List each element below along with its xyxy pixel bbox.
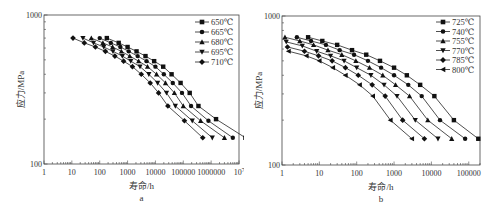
legend-label: 755℃ xyxy=(452,36,474,46)
triangle-down-marker-icon xyxy=(354,65,359,70)
circle-marker-icon xyxy=(162,72,166,76)
series-695℃ xyxy=(80,36,215,141)
square-marker-icon xyxy=(188,91,192,95)
circle-marker-icon xyxy=(366,59,370,63)
triangle-left-marker-icon xyxy=(388,118,393,123)
triangle-left-marker-icon xyxy=(286,49,291,54)
square-marker-icon xyxy=(418,83,422,87)
circle-marker-icon xyxy=(144,59,148,63)
triangle-up-marker-icon xyxy=(145,64,150,69)
triangle-up-marker-icon xyxy=(89,35,94,40)
square-marker-icon xyxy=(441,20,446,25)
circle-marker-icon xyxy=(337,48,341,52)
circle-marker-icon xyxy=(135,54,139,58)
circle-marker-icon xyxy=(295,35,299,39)
legend-label: 695℃ xyxy=(211,47,233,57)
triangle-up-marker-icon xyxy=(380,73,385,78)
triangle-down-marker-icon xyxy=(128,59,133,64)
square-marker-icon xyxy=(214,117,218,121)
triangle-left-marker-icon xyxy=(343,73,348,78)
series-800℃ xyxy=(286,49,414,142)
y-tick-label: 1000 xyxy=(264,12,280,21)
circle-marker-icon xyxy=(231,136,235,140)
diamond-marker-icon xyxy=(343,65,349,71)
square-marker-icon xyxy=(306,35,310,39)
square-marker-icon xyxy=(169,72,173,76)
legend-label: 800℃ xyxy=(452,65,474,75)
circle-marker-icon xyxy=(200,30,205,35)
triangle-down-marker-icon xyxy=(120,54,125,59)
legend-label: 740℃ xyxy=(452,27,474,37)
x-tick-label: 10 xyxy=(315,169,323,178)
square-marker-icon xyxy=(116,41,120,45)
diamond-marker-icon xyxy=(121,58,127,64)
triangle-up-marker-icon xyxy=(181,103,186,108)
circle-marker-icon xyxy=(98,36,102,40)
diamond-marker-icon xyxy=(285,44,291,50)
circle-marker-icon xyxy=(118,45,122,49)
y-tick-label: 1000 xyxy=(26,11,42,20)
square-marker-icon xyxy=(143,54,147,58)
triangle-left-marker-icon xyxy=(330,65,335,70)
legend-label: 680℃ xyxy=(211,37,233,47)
square-marker-icon xyxy=(476,137,480,141)
legend-label: 725℃ xyxy=(452,17,474,27)
x-tick-label: 100000 xyxy=(171,168,195,177)
legend: 725℃740℃755℃770℃785℃800℃ xyxy=(436,17,474,75)
y-axis-label: 应力/MPa xyxy=(253,72,264,110)
chart-panel-b: 1101001000100001000001001000寿命/hb应力/MPa7… xyxy=(244,0,488,210)
square-marker-icon xyxy=(378,59,382,63)
circle-marker-icon xyxy=(127,49,131,53)
x-tick-label: 100 xyxy=(94,168,106,177)
triangle-down-marker-icon xyxy=(435,137,440,142)
square-marker-icon xyxy=(178,81,182,85)
diamond-marker-icon xyxy=(302,48,308,54)
triangle-down-marker-icon xyxy=(210,136,215,141)
triangle-down-marker-icon xyxy=(342,59,347,64)
circle-marker-icon xyxy=(406,83,410,87)
series-740℃ xyxy=(295,35,468,141)
x-tick-label: 1000 xyxy=(120,168,136,177)
triangle-up-marker-icon xyxy=(136,58,141,63)
circle-marker-icon xyxy=(171,81,175,85)
chart-panel-a: 11010010001000010000010000001071001000寿命… xyxy=(0,0,244,210)
square-marker-icon xyxy=(125,45,129,49)
diamond-marker-icon xyxy=(70,35,76,41)
chart-b-svg: 1101001000100001000001001000寿命/hb应力/MPa7… xyxy=(244,0,488,210)
diamond-marker-icon xyxy=(316,53,322,59)
triangle-left-marker-icon xyxy=(304,53,309,58)
series-755℃ xyxy=(282,35,454,141)
x-tick-label: 1000 xyxy=(386,169,402,178)
panel-label: a xyxy=(140,193,144,203)
x-axis-label: 寿命/h xyxy=(129,180,155,191)
circle-marker-icon xyxy=(206,119,210,123)
x-tick-label: 10000 xyxy=(145,168,165,177)
legend-label: 710℃ xyxy=(211,57,233,67)
circle-marker-icon xyxy=(463,137,467,141)
x-tick-label: 1 xyxy=(280,169,284,178)
square-marker-icon xyxy=(364,52,368,56)
x-tick-label: 100000 xyxy=(457,169,481,178)
square-marker-icon xyxy=(196,104,200,108)
square-marker-icon xyxy=(405,73,409,77)
triangle-left-marker-icon xyxy=(357,82,362,87)
chart-a-svg: 11010010001000010000010000001071001000寿命… xyxy=(0,0,244,210)
triangle-down-marker-icon xyxy=(368,73,373,78)
x-tick-label: 10000 xyxy=(421,169,441,178)
triangle-up-marker-icon xyxy=(119,49,124,54)
circle-marker-icon xyxy=(109,41,113,45)
diamond-marker-icon xyxy=(103,49,109,55)
y-tick-label: 100 xyxy=(268,161,280,170)
diamond-marker-icon xyxy=(82,40,88,46)
diamond-marker-icon xyxy=(112,53,118,59)
triangle-up-marker-icon xyxy=(282,35,287,40)
series-680℃ xyxy=(89,35,227,140)
triangle-up-marker-icon xyxy=(127,53,132,58)
square-marker-icon xyxy=(350,48,354,52)
square-marker-icon xyxy=(200,20,205,25)
triangle-down-marker-icon xyxy=(80,36,85,41)
circle-marker-icon xyxy=(189,104,193,108)
circle-marker-icon xyxy=(324,43,328,47)
diamond-marker-icon xyxy=(440,57,446,63)
triangle-up-marker-icon xyxy=(353,58,358,63)
